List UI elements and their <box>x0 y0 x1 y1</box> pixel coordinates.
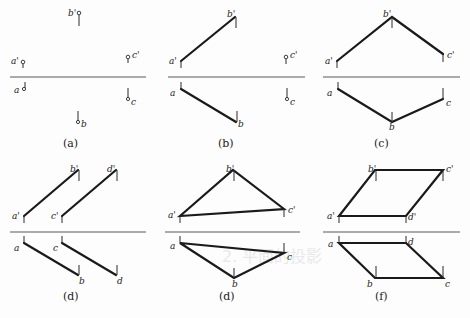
label-b: b <box>238 119 244 129</box>
label-a-prime: a' <box>168 210 176 220</box>
label-a-prime: a' <box>327 211 335 221</box>
label-b: b <box>367 279 373 289</box>
caption-d-parallel: (d) <box>63 290 79 303</box>
label-b: b <box>79 276 85 286</box>
label-a-prime: a' <box>12 211 20 221</box>
point-c-prime <box>284 55 288 59</box>
label-d: d <box>117 276 123 286</box>
parallelogram-a-prime-b-prime-c-prime-d-prime <box>339 170 443 216</box>
panel-b: a' b' c' a b c (b) <box>168 9 305 150</box>
label-c: c <box>131 97 136 107</box>
label-a: a <box>328 239 333 249</box>
point-b-prime <box>77 11 81 15</box>
label-d-prime: d' <box>408 212 416 222</box>
label-a-prime: a' <box>169 56 177 66</box>
parallelogram-a-d-c-b <box>339 243 443 278</box>
label-b-prime: b' <box>227 9 235 19</box>
panel-d-triangle: a' b' c' a b c (d) <box>165 164 300 303</box>
label-a: a <box>327 88 332 98</box>
label-a: a <box>14 85 19 95</box>
line-a-prime-b-prime <box>181 17 235 61</box>
label-a-prime: a' <box>325 56 333 66</box>
label-a: a <box>14 243 19 253</box>
label-c: c <box>446 98 451 108</box>
polyline-a-b-c <box>338 89 443 122</box>
label-a: a <box>170 241 175 251</box>
label-b: b <box>81 119 87 129</box>
triangle-a-prime-b-prime-c-prime <box>180 170 284 216</box>
label-c-prime: c' <box>447 50 455 60</box>
label-b: b <box>389 122 395 132</box>
projection-figure: 2. 平面的投影 b' a' c' a c b (a) a' <box>0 0 470 318</box>
polyline-a-prime-b-prime-c-prime <box>337 17 443 61</box>
label-d: d <box>408 237 414 247</box>
label-b-prime: b' <box>368 164 376 174</box>
label-c-prime: c' <box>446 164 454 174</box>
label-c-prime: c' <box>290 50 298 60</box>
label-c-prime: c' <box>51 211 59 221</box>
label-b-prime: b' <box>383 9 391 19</box>
point-a-prime <box>21 60 25 64</box>
label-a-prime: a' <box>11 56 19 66</box>
point-c-prime <box>126 55 130 59</box>
caption-b: (b) <box>218 137 234 150</box>
caption-a: (a) <box>63 137 78 150</box>
label-a: a <box>170 88 175 98</box>
panel-a: b' a' c' a c b (a) <box>10 8 146 150</box>
label-b: b <box>232 279 238 289</box>
label-b-prime: b' <box>226 164 234 174</box>
caption-c: (c) <box>374 137 389 150</box>
label-c: c <box>287 252 292 262</box>
label-c-prime: c' <box>132 50 140 60</box>
panel-f: a' b' c' d' a d b c (f) <box>323 164 460 303</box>
point-a <box>22 87 25 90</box>
label-c: c <box>445 279 450 289</box>
caption-f: (f) <box>375 290 388 303</box>
line-a-b <box>181 89 236 122</box>
label-c: c <box>53 243 58 253</box>
label-b-prime: b' <box>68 8 76 18</box>
label-c: c <box>290 97 295 107</box>
panel-c: a' b' c' a b c (c) <box>323 9 460 150</box>
label-b-prime: b' <box>70 164 78 174</box>
background-ghost-text: 2. 平面的投影 <box>222 247 322 266</box>
panel-d-parallel: a' c' b' d' a c b d (d) <box>10 164 146 303</box>
caption-d-triangle: (d) <box>219 290 235 303</box>
label-d-prime: d' <box>107 164 115 174</box>
label-c-prime: c' <box>288 205 296 215</box>
